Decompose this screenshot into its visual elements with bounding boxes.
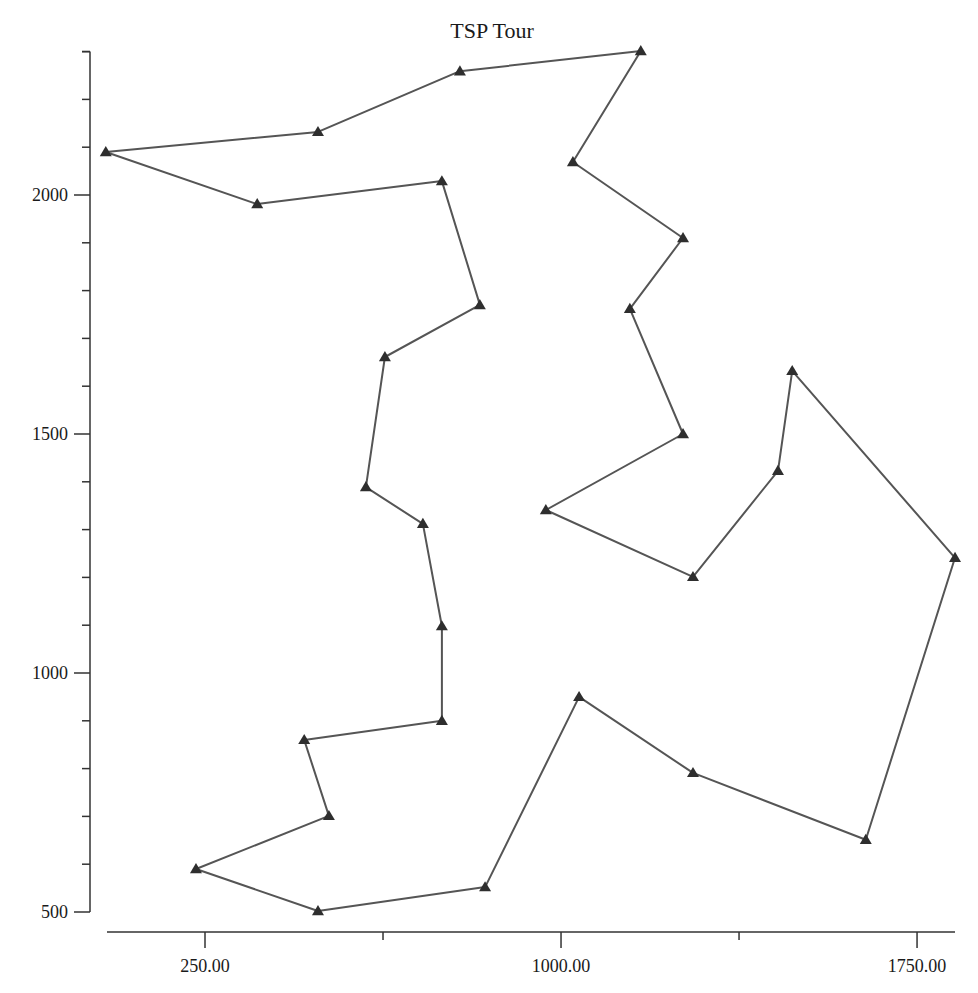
triangle-marker-icon	[417, 518, 429, 528]
chart-title: TSP Tour	[450, 18, 534, 43]
triangle-marker-icon	[436, 715, 448, 725]
y-tick-label: 1000	[32, 663, 68, 683]
triangle-marker-icon	[474, 299, 486, 309]
triangle-marker-icon	[436, 620, 448, 630]
triangle-marker-icon	[677, 232, 689, 242]
triangle-marker-icon	[573, 691, 585, 701]
triangle-marker-icon	[479, 881, 491, 891]
x-tick-label: 1000.00	[532, 956, 591, 976]
y-tick-label: 2000	[32, 185, 68, 205]
triangle-marker-icon	[687, 767, 699, 777]
y-tick-label: 1500	[32, 424, 68, 444]
triangle-marker-icon	[360, 481, 372, 491]
triangle-marker-icon	[540, 504, 552, 514]
plot-area	[100, 45, 961, 915]
triangle-marker-icon	[567, 156, 579, 166]
city-markers	[100, 45, 961, 915]
triangle-marker-icon	[635, 45, 647, 55]
tsp-tour-chart: TSP Tour 500100015002000 250.001000.0017…	[0, 0, 978, 993]
x-tick-label: 250.00	[180, 956, 230, 976]
triangle-marker-icon	[786, 365, 798, 375]
triangle-marker-icon	[379, 351, 391, 361]
tour-path	[106, 51, 955, 911]
y-tick-label: 500	[41, 902, 68, 922]
x-axis: 250.001000.001750.00	[107, 932, 955, 976]
triangle-marker-icon	[436, 175, 448, 185]
triangle-marker-icon	[772, 465, 784, 475]
x-tick-label: 1750.00	[888, 956, 947, 976]
y-axis: 500100015002000	[32, 52, 90, 922]
triangle-marker-icon	[323, 810, 335, 820]
triangle-marker-icon	[677, 428, 689, 438]
